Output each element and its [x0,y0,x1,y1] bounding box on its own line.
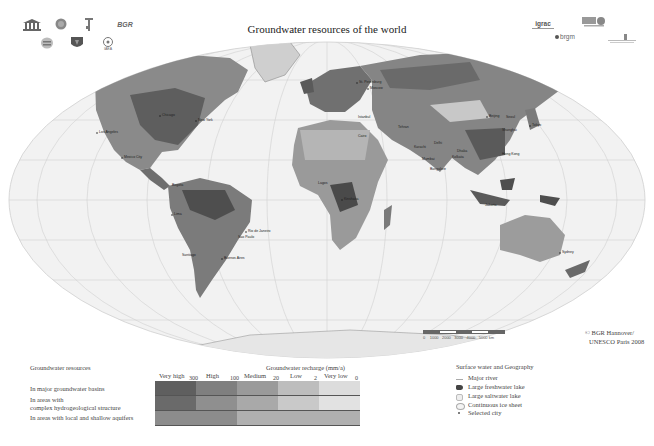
row-label-local-aquifers: In areas with local and shallow aquifers [30,414,133,422]
row-label-major-basins: In major groundwater basins [30,385,105,393]
city-label: Jakarta [485,203,496,207]
scale-labels: 0 1000 2000 3000 4000 5000 km [423,335,494,340]
city-label: St. Petersburg [359,80,381,84]
scale-tick: 2000 [442,335,451,340]
scale-bar [423,330,505,334]
city-label: Seoul [506,115,515,119]
city-label: Sao Paulo [238,235,254,239]
row-label-complex-line1: In areas with [30,396,64,404]
city-label: New York [198,118,213,122]
city-label: Lima [174,212,182,216]
legend-swatch [278,381,319,396]
recharge-title: Groundwater recharge (mm/a) [266,364,345,371]
freshwater-lake-icon [456,385,463,390]
scale-tick: 3000 [454,335,463,340]
surface-water-title: Surface water and Geography [456,363,533,370]
legend-saltwater-lake: Large saltwater lake [468,392,521,399]
legend-swatch [237,396,278,411]
row-label-complex-line2: complex hydrogeological structure [30,404,121,412]
legend-selected-city: Selected city [468,409,501,416]
groundwater-resources-title: Groundwater resources [30,364,90,371]
city-label: Shanghai [502,128,517,132]
legend-swatch [278,411,319,426]
ice-sheet-icon [456,403,465,410]
legend-swatch [319,411,360,426]
city-label: Rio de Janeiro [248,229,271,233]
legend-swatch [196,411,237,426]
city-label: Moscow [370,86,383,90]
scale-tick: 0 [423,335,425,340]
category-very-low: Very low [324,372,348,379]
legend-swatch [155,396,196,411]
copyright-line: © BGR Hannover/ [585,328,644,337]
city-label: Bogota [172,183,183,187]
copyright-line: UNESCO Paris 2008 [585,337,644,346]
legend-swatch [278,396,319,411]
city-label: Dhaka [457,149,467,153]
city-label: Karachi [414,145,426,149]
city-label: Los Angeles [99,130,118,134]
legend-freshwater-lake: Large freshwater lake [468,383,525,390]
legend-swatch [237,411,278,426]
city-label: Beijing [489,114,500,118]
category-medium: Medium [244,372,266,379]
legend-swatch [196,381,237,396]
city-label: Santiago [182,253,196,257]
category-low: Low [290,372,302,379]
legend-swatch [196,396,237,411]
scale-tick: 1000 [430,335,439,340]
scale-tick: 4000 [466,335,475,340]
city-label: Chicago [162,113,175,117]
legend-swatch [319,396,360,411]
major-river-icon [456,379,463,380]
city-label: Tokyo [532,123,541,127]
city-label: Buenos Aires [224,256,245,260]
category-high: High [206,372,219,379]
city-label: Istanbul [358,115,370,119]
legend-swatch [155,381,196,396]
city-label: Lagos [318,181,328,185]
city-label: Kinshasa [344,197,358,201]
map-title: Groundwater resources of the world [0,23,654,35]
recharge-legend-grid [155,381,360,426]
city-label: Cairo [358,134,366,138]
legend-swatch [155,411,196,426]
legend-swatch [319,381,360,396]
city-label: Mexico City [124,155,142,159]
scale-tick: 5000 km [479,335,494,340]
city-label: Mumbai [422,157,434,161]
city-label: Delhi [434,141,442,145]
city-label: Tehran [398,125,409,129]
world-map[interactable] [0,40,654,360]
city-label: Bangalore [430,167,446,171]
copyright: © BGR Hannover/ UNESCO Paris 2008 [585,328,644,346]
legend-swatch [237,381,278,396]
legend-major-river: Major river [468,374,498,381]
legend-ice-sheet: Continuous ice sheet [468,401,522,408]
city-label: Kolkata [452,155,464,159]
saltwater-lake-icon [456,394,463,401]
city-label: Sydney [562,250,574,254]
category-very-high: Very high [159,372,184,379]
city-label: Hong Kong [502,152,520,156]
selected-city-icon [458,412,460,414]
